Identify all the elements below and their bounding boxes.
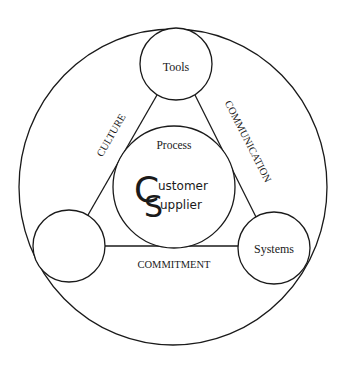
- logo-word-supplier: upplier: [160, 198, 202, 212]
- tools-label: Tools: [163, 60, 190, 74]
- systems-label: Systems: [254, 242, 294, 256]
- customer-supplier-diagram: Tools Systems Process C S ustomer upplie…: [0, 0, 343, 368]
- culture-label: CULTURE: [94, 112, 127, 159]
- commitment-label: COMMITMENT: [138, 259, 212, 270]
- process-label: Process: [156, 139, 192, 151]
- left-node-circle: [33, 210, 105, 282]
- logo-word-customer: ustomer: [158, 179, 208, 193]
